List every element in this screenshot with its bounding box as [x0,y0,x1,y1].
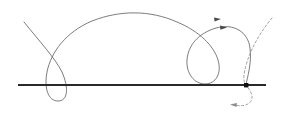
figure-canvas [0,0,284,118]
figure-background [0,0,284,118]
trajectory-diagram [0,0,284,118]
terminal-point-marker [244,83,248,87]
